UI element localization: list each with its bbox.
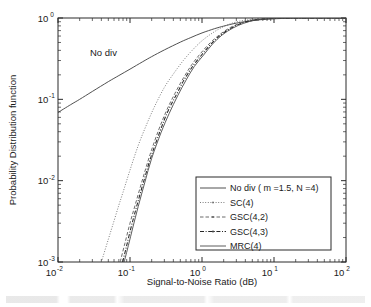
- y-tick-label: 10: [38, 175, 49, 186]
- y-tick-label: 10: [38, 13, 49, 24]
- x-tick-exponent: 1: [274, 265, 278, 272]
- x-tick-exponent: -2: [57, 265, 63, 272]
- x-axis-title: Signal-to-Noise Ratio (dB): [147, 276, 257, 287]
- cdf-chart: 10-210-1100101102 10010-110-210-3 Signal…: [0, 0, 371, 307]
- chart-background: [0, 0, 371, 307]
- x-tick-label: 10: [334, 267, 345, 278]
- y-axis-title: Probability Distribution function: [7, 75, 18, 205]
- y-tick-exponent: -2: [49, 174, 55, 181]
- legend-label[interactable]: SC(4): [230, 198, 254, 208]
- legend-marker-icon: [212, 231, 214, 233]
- y-tick-label: 10: [38, 94, 49, 105]
- y-tick-label: 10: [38, 257, 49, 268]
- legend-label[interactable]: GSC(4,2): [230, 212, 268, 222]
- x-tick-label: 10: [262, 267, 273, 278]
- y-tick-exponent: 0: [50, 11, 54, 18]
- no-div-annotation: No div: [90, 47, 117, 58]
- caption-placeholder: [6, 296, 365, 303]
- legend-label[interactable]: GSC(4,3): [230, 227, 268, 237]
- x-tick-exponent: -1: [129, 265, 135, 272]
- y-tick-exponent: -3: [49, 255, 55, 262]
- x-tick-label: 10: [118, 267, 129, 278]
- figure-container: 10-210-1100101102 10010-110-210-3 Signal…: [0, 0, 371, 307]
- x-tick-exponent: 0: [202, 265, 206, 272]
- chart-legend[interactable]: No div ( m =1.5, N =4)SC(4)GSC(4,2)GSC(4…: [196, 177, 331, 251]
- legend-label[interactable]: MRC(4): [230, 241, 262, 251]
- y-tick-exponent: -1: [49, 92, 55, 99]
- legend-label[interactable]: No div ( m =1.5, N =4): [230, 183, 319, 193]
- legend-marker-icon: [212, 216, 214, 218]
- legend-marker-icon: [212, 202, 214, 204]
- x-tick-label: 10: [46, 267, 57, 278]
- x-tick-exponent: 2: [346, 265, 350, 272]
